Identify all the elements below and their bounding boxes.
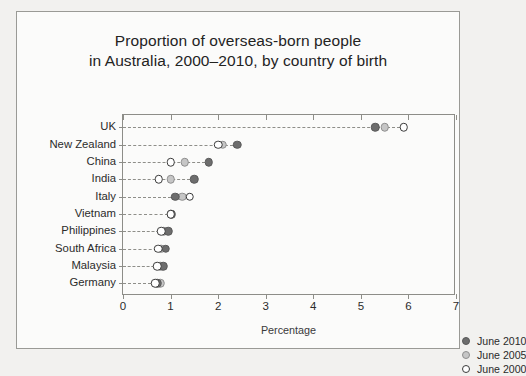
y-axis-label-italy: Italy bbox=[95, 191, 116, 202]
chart-title: Proportion of overseas-born people in Au… bbox=[17, 31, 459, 71]
y-axis-label-china: China bbox=[86, 156, 116, 167]
x-tick-top bbox=[408, 115, 409, 120]
x-tick bbox=[123, 294, 124, 299]
x-tick-label: 0 bbox=[120, 301, 126, 313]
x-tick bbox=[313, 294, 314, 299]
legend-item: June 2005 bbox=[461, 348, 526, 362]
y-axis-label-south-africa: South Africa bbox=[55, 243, 116, 254]
x-tick-top bbox=[266, 115, 267, 120]
x-tick-top bbox=[123, 115, 124, 120]
data-point bbox=[166, 175, 175, 184]
x-tick bbox=[456, 294, 457, 299]
x-tick-label: 6 bbox=[405, 301, 411, 313]
x-tick bbox=[408, 294, 409, 299]
x-tick bbox=[218, 294, 219, 299]
y-axis-tick bbox=[119, 283, 123, 284]
data-point bbox=[157, 227, 166, 236]
leader-line bbox=[123, 214, 168, 215]
x-tick-top bbox=[313, 115, 314, 120]
y-axis-tick bbox=[119, 145, 123, 146]
data-point bbox=[151, 279, 160, 288]
chart-legend: June 2010June 2005June 2000 bbox=[461, 334, 526, 376]
y-axis-tick bbox=[119, 214, 123, 215]
legend-label: June 2000 bbox=[477, 363, 526, 375]
data-point bbox=[214, 141, 223, 150]
y-axis-label-malaysia: Malaysia bbox=[71, 260, 116, 271]
x-tick-label: 1 bbox=[167, 301, 173, 313]
chart-title-line-2: in Australia, 2000–2010, by country of b… bbox=[17, 51, 459, 71]
x-tick bbox=[266, 294, 267, 299]
y-axis-label-uk: UK bbox=[100, 122, 116, 133]
y-axis-tick bbox=[119, 162, 123, 163]
data-point bbox=[399, 123, 408, 132]
data-point bbox=[380, 123, 389, 132]
data-point bbox=[171, 193, 180, 202]
legend-item: June 2000 bbox=[461, 362, 526, 376]
plot-area: UKNew ZealandChinaIndiaItalyVietnamPhili… bbox=[122, 114, 455, 295]
legend-label: June 2005 bbox=[477, 349, 526, 361]
x-tick-label: 2 bbox=[215, 301, 221, 313]
data-point bbox=[153, 262, 162, 271]
data-point bbox=[204, 158, 213, 167]
x-axis-title: Percentage bbox=[122, 324, 455, 336]
leader-line bbox=[123, 162, 205, 163]
legend-swatch-icon bbox=[462, 351, 470, 359]
y-axis-label-vietnam: Vietnam bbox=[75, 208, 116, 219]
data-point bbox=[181, 158, 190, 167]
x-tick-top bbox=[218, 115, 219, 120]
y-axis-tick bbox=[119, 127, 123, 128]
data-point bbox=[166, 210, 175, 219]
y-axis-tick bbox=[119, 266, 123, 267]
x-tick-top bbox=[171, 115, 172, 120]
data-point bbox=[154, 175, 163, 184]
y-axis-tick bbox=[119, 179, 123, 180]
x-tick-label: 7 bbox=[453, 301, 459, 313]
x-tick-label: 4 bbox=[310, 301, 316, 313]
y-axis-label-new-zealand: New Zealand bbox=[49, 139, 116, 150]
legend-swatch-icon bbox=[462, 337, 470, 345]
x-tick-label: 5 bbox=[358, 301, 364, 313]
leader-line bbox=[123, 127, 400, 128]
data-point bbox=[154, 244, 163, 253]
x-tick bbox=[361, 294, 362, 299]
legend-swatch-icon bbox=[462, 365, 470, 373]
figure-frame: Proportion of overseas-born people in Au… bbox=[16, 11, 460, 349]
chart-title-line-1: Proportion of overseas-born people bbox=[17, 31, 459, 51]
y-axis-tick bbox=[119, 197, 123, 198]
data-point bbox=[162, 244, 171, 253]
x-tick-top bbox=[456, 115, 457, 120]
x-tick-label: 3 bbox=[263, 301, 269, 313]
y-axis-label-india: India bbox=[92, 174, 117, 185]
data-point bbox=[371, 123, 380, 132]
data-point bbox=[166, 158, 175, 167]
y-axis-label-philippines: Philippines bbox=[61, 226, 116, 237]
y-axis-tick bbox=[119, 231, 123, 232]
data-point bbox=[233, 141, 242, 150]
legend-item: June 2010 bbox=[461, 334, 526, 348]
y-axis-label-germany: Germany bbox=[70, 278, 116, 289]
y-axis-tick bbox=[119, 249, 123, 250]
x-tick bbox=[171, 294, 172, 299]
data-point bbox=[185, 193, 194, 202]
x-tick-top bbox=[361, 115, 362, 120]
data-point bbox=[190, 175, 199, 184]
legend-label: June 2010 bbox=[477, 335, 526, 347]
